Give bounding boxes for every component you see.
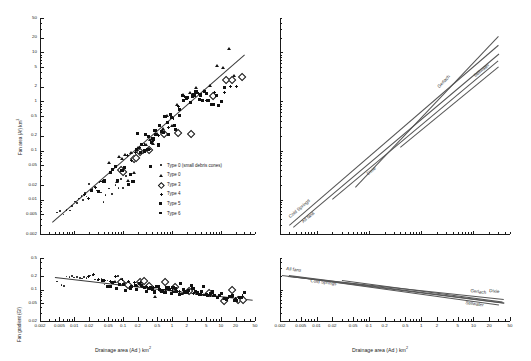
data-point <box>125 175 127 177</box>
y-axis-tick <box>40 158 42 159</box>
data-point <box>123 166 126 169</box>
data-point <box>215 64 219 67</box>
x-axis-line <box>40 321 255 322</box>
data-point <box>145 290 148 293</box>
x-axis-tick-label: 0.02 <box>82 324 96 328</box>
x-axis-tick <box>63 232 64 234</box>
y-axis-tick <box>40 307 42 308</box>
y-axis-tick <box>40 313 42 314</box>
x-axis-tick <box>164 319 165 321</box>
data-point <box>157 285 160 288</box>
y-axis-tick <box>40 296 42 297</box>
x-axis-tick <box>67 232 68 234</box>
regression-line-all-fans <box>293 53 499 227</box>
data-point <box>132 171 136 174</box>
y-axis-tick <box>280 170 282 171</box>
x-axis-tick <box>394 319 395 321</box>
y-axis-tick-label: 0.002 <box>21 232 37 236</box>
open-diamond-icon <box>158 182 164 188</box>
data-point <box>186 130 195 139</box>
x-axis-tick <box>67 319 68 321</box>
x-axis-tick-major <box>89 317 90 321</box>
x-axis-tick <box>98 319 99 321</box>
y-axis-tick <box>40 109 42 110</box>
data-point <box>167 126 170 129</box>
filled-square-icon <box>159 202 162 205</box>
x-axis-tick-major <box>221 317 222 321</box>
data-point <box>92 273 95 276</box>
x-axis-tick-label: 2 <box>430 324 444 328</box>
panel-bottom-right: 0.0020.0050.010.020.050.10.20.5125102050… <box>266 250 531 361</box>
panel-top-right: Cold SpringsAll fansDixieGerlachStillwat… <box>266 0 531 250</box>
y-axis-tick-major <box>40 214 44 215</box>
x-axis-tick <box>348 232 349 234</box>
x-axis-tick-major <box>473 317 474 321</box>
x-axis-tick <box>405 232 406 234</box>
x-axis-tick <box>69 232 70 234</box>
data-point <box>69 276 71 278</box>
x-axis-tick-label: 10 <box>214 324 228 328</box>
x-axis-tick <box>72 232 73 234</box>
y-axis-tick <box>280 60 282 61</box>
x-axis-tick-label: 0.05 <box>101 324 115 328</box>
data-point <box>207 99 210 102</box>
data-point <box>87 197 90 200</box>
x-axis-tick <box>216 319 217 321</box>
legend-item-label: Type 5 <box>167 201 181 206</box>
y-axis-tick <box>40 207 42 208</box>
x-axis-tick <box>250 319 251 321</box>
x-axis-tick <box>213 319 214 321</box>
x-axis-tick <box>172 231 173 234</box>
x-axis-tick-major <box>421 317 422 321</box>
y-axis-tick <box>40 60 42 61</box>
x-axis-tick <box>152 232 153 234</box>
y-axis-tick <box>280 234 282 235</box>
plot-area-top-left: 0.0020.0050.010.020.050.10.20.5125102050… <box>40 18 255 234</box>
x-axis-tick-major <box>187 317 188 321</box>
y-axis-tick <box>40 176 42 177</box>
y-axis-tick-major <box>40 18 44 19</box>
y-axis-tick <box>40 211 42 212</box>
data-point <box>163 291 166 294</box>
data-point <box>97 190 100 193</box>
y-axis-tick <box>40 294 42 295</box>
x-axis-tick <box>305 319 306 321</box>
x-axis-tick <box>364 319 365 321</box>
x-axis-tick-label: 50 <box>248 324 262 328</box>
x-axis-tick-major <box>172 317 173 321</box>
y-axis-tick-major <box>40 136 44 137</box>
regression-line-dixie <box>332 60 499 199</box>
data-point <box>174 128 177 131</box>
x-axis-tick <box>170 319 171 321</box>
x-axis-tick <box>311 319 312 321</box>
y-axis-tick-major <box>40 258 44 259</box>
x-axis-tick-label: 1 <box>165 324 179 328</box>
data-point <box>71 205 73 207</box>
x-axis-tick <box>410 319 411 321</box>
x-axis-tick <box>244 232 245 234</box>
data-point <box>181 94 184 97</box>
data-point <box>83 193 86 196</box>
y-axis-tick-major <box>40 234 44 235</box>
y-axis-tick <box>280 57 282 58</box>
x-axis-tick-major <box>108 317 109 321</box>
data-point <box>61 284 63 286</box>
y-axis-tick <box>280 18 282 19</box>
data-point <box>220 100 223 103</box>
y-axis-tick <box>280 204 282 205</box>
data-point <box>100 192 102 194</box>
y-axis-tick-label: 0.01 <box>21 197 37 201</box>
data-point <box>178 108 181 111</box>
x-axis-tick <box>471 319 472 321</box>
x-axis-tick-label: 0.5 <box>398 324 412 328</box>
y-axis-tick <box>280 109 282 110</box>
x-axis-tick <box>342 232 343 234</box>
x-axis-tick-label: 0.2 <box>131 324 145 328</box>
y-axis-tick <box>40 292 42 293</box>
y-axis-tick <box>280 63 282 64</box>
x-axis-tick <box>104 319 105 321</box>
y-axis-tick <box>280 78 282 79</box>
data-point <box>88 183 90 185</box>
x-axis-tick <box>473 231 474 234</box>
data-point <box>63 214 65 216</box>
